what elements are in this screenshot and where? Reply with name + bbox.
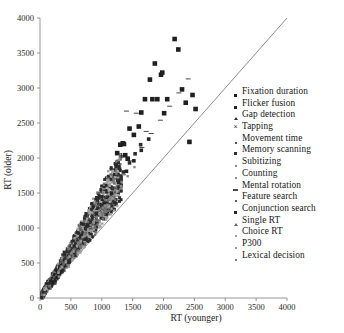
- data-point: [110, 191, 114, 195]
- data-point: [125, 156, 130, 161]
- x-tick-label: 500: [65, 302, 78, 312]
- data-point: [62, 263, 64, 265]
- data-point: [106, 210, 108, 212]
- data-point: [118, 196, 121, 199]
- legend-item-label: Feature search: [242, 191, 297, 203]
- data-point: [120, 181, 122, 183]
- data-point: [120, 158, 122, 160]
- legend-item[interactable]: Movement time: [231, 133, 343, 145]
- legend-item[interactable]: Counting: [231, 168, 343, 180]
- data-point: [162, 111, 167, 116]
- legend-marker-x-icon: ×: [231, 123, 240, 130]
- data-point: [88, 212, 90, 214]
- data-points-layer: [40, 37, 198, 300]
- data-point: [83, 238, 86, 241]
- chart-legend: Fixation durationFlicker fusionGap detec…: [231, 86, 343, 261]
- legend-item[interactable]: Choice RT: [231, 226, 343, 238]
- legend-item[interactable]: Mental rotation: [231, 180, 343, 192]
- series-flicker-fusion: [115, 37, 198, 161]
- y-axis-ticks: 05001000150020002500300035004000: [17, 13, 40, 303]
- data-point: [167, 106, 172, 107]
- data-point: [109, 184, 111, 186]
- data-point: [190, 93, 195, 98]
- legend-item[interactable]: Feature search: [231, 191, 343, 203]
- data-point: [83, 233, 85, 235]
- data-point: [139, 149, 143, 153]
- data-point: [102, 207, 104, 209]
- data-point: [84, 242, 86, 244]
- data-point: [57, 272, 59, 274]
- legend-item[interactable]: Single RT: [231, 215, 343, 227]
- data-point: [115, 172, 117, 174]
- legend-item[interactable]: P300: [231, 238, 343, 250]
- data-point: [80, 240, 82, 242]
- data-point: [115, 168, 117, 170]
- legend-item-label: Movement time: [242, 133, 302, 145]
- legend-item[interactable]: Subitizing: [231, 156, 343, 168]
- legend-item-label: Lexical decision: [242, 250, 305, 262]
- data-point: [113, 182, 115, 184]
- data-point: [101, 195, 104, 198]
- legend-item[interactable]: Lexical decision: [231, 250, 343, 262]
- data-point: [106, 204, 108, 206]
- data-point: [68, 260, 71, 263]
- y-tick-label: 0: [30, 293, 34, 303]
- data-point: [121, 174, 126, 175]
- data-point: [79, 246, 81, 248]
- data-point: [125, 170, 129, 174]
- data-point: [112, 170, 114, 172]
- legend-item-label: Mental rotation: [242, 180, 301, 192]
- data-point: [96, 220, 98, 222]
- legend-item[interactable]: Flicker fusion: [231, 98, 343, 110]
- data-point: [100, 184, 103, 187]
- data-point: [110, 213, 112, 215]
- y-tick-label: 2000: [17, 153, 34, 163]
- legend-item[interactable]: Memory scanning: [231, 144, 343, 156]
- data-point: [153, 61, 158, 66]
- data-point: [76, 235, 78, 237]
- data-point: [160, 70, 165, 75]
- y-tick-label: 3500: [17, 48, 34, 58]
- data-point: [110, 187, 114, 191]
- legend-item-label: Memory scanning: [242, 144, 311, 156]
- y-tick-label: 4000: [17, 13, 34, 23]
- legend-marker-dash-icon: [231, 180, 240, 192]
- data-point: [101, 222, 103, 224]
- data-point: [183, 100, 188, 105]
- data-point: [94, 227, 96, 229]
- data-point: [158, 120, 163, 121]
- legend-item[interactable]: Fixation duration: [231, 86, 343, 98]
- data-point: [96, 199, 99, 202]
- y-tick-label: 500: [21, 258, 34, 268]
- data-point: [116, 160, 118, 162]
- data-point: [122, 142, 127, 147]
- x-tick-label: 3500: [248, 302, 265, 312]
- data-point: [71, 256, 73, 258]
- data-point: [77, 242, 79, 244]
- data-point: [139, 143, 143, 147]
- data-point: [117, 181, 121, 185]
- data-point: [115, 163, 118, 166]
- legend-item-label: Choice RT: [242, 226, 283, 238]
- data-point: [127, 126, 132, 131]
- legend-item-label: Single RT: [242, 215, 280, 227]
- data-point: [113, 196, 115, 198]
- legend-item[interactable]: ×Tapping: [231, 121, 343, 133]
- scatter-plot-figure: 05001000150020002500300035004000 0500100…: [0, 0, 344, 333]
- data-point: [187, 140, 192, 145]
- data-point: [80, 223, 83, 226]
- data-point: [46, 282, 49, 285]
- data-point: [40, 296, 43, 299]
- y-tick-label: 1500: [17, 188, 34, 198]
- legend-item[interactable]: Conjunction search: [231, 203, 343, 215]
- data-point: [90, 229, 92, 231]
- series-feature-search: [62, 200, 109, 265]
- data-point: [103, 211, 105, 213]
- data-point: [107, 175, 110, 178]
- data-point: [119, 156, 121, 158]
- data-point: [103, 178, 106, 181]
- legend-item[interactable]: Gap detection: [231, 109, 343, 121]
- legend-marker-square-icon: [231, 133, 240, 145]
- legend-item-label: Flicker fusion: [242, 98, 295, 110]
- data-point: [110, 166, 113, 169]
